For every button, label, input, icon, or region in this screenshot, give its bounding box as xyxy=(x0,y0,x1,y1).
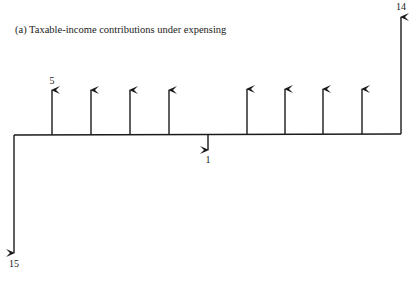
cash-flow-diagram: 15 5 1 14 xyxy=(0,0,415,283)
label-1: 1 xyxy=(206,154,211,165)
label-14: 14 xyxy=(396,1,406,12)
label-5: 5 xyxy=(50,75,55,86)
label-15: 15 xyxy=(9,258,19,269)
